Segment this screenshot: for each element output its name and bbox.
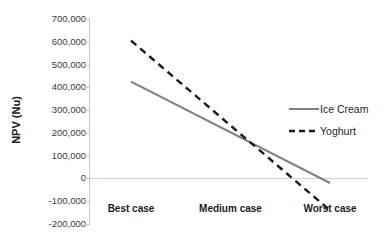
legend-line-solid-icon: [289, 104, 319, 114]
npv-sensitivity-line-chart: NPV (Nu) 700,000 600,000 500,000 400,000…: [0, 0, 392, 239]
legend-line-dashed-icon: [289, 126, 319, 136]
legend-label: Yoghurt: [319, 125, 356, 137]
x-category-label-worst-case: Worst case: [303, 203, 356, 214]
legend-item-ice-cream: Ice Cream: [289, 98, 389, 120]
legend: Ice Cream Yoghurt: [289, 98, 389, 142]
legend-label: Ice Cream: [319, 103, 368, 115]
legend-item-yoghurt: Yoghurt: [289, 120, 389, 142]
x-category-label-best-case: Best case: [108, 203, 155, 214]
x-category-label-medium-case: Medium case: [199, 203, 262, 214]
